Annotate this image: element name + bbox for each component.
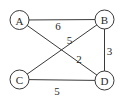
edge-weight-a-b: 6 xyxy=(55,20,61,32)
edge-weight-c-b: 5 xyxy=(67,34,73,46)
edges-group xyxy=(20,20,105,81)
node-label: C xyxy=(16,74,23,86)
edge-weight-a-d: 2 xyxy=(76,53,82,65)
node-d: D xyxy=(95,71,114,90)
edge-c-d xyxy=(20,80,105,81)
graph-diagram: 65235 ABCD xyxy=(0,0,122,101)
node-c: C xyxy=(10,70,29,89)
node-b: B xyxy=(95,10,114,29)
edge-weight-c-d: 5 xyxy=(54,85,60,97)
node-label: D xyxy=(101,75,109,87)
edge-a-b xyxy=(20,20,105,21)
node-label: A xyxy=(16,15,24,27)
node-label: B xyxy=(101,14,108,26)
node-a: A xyxy=(10,11,29,30)
edge-weight-b-d: 3 xyxy=(107,45,113,57)
